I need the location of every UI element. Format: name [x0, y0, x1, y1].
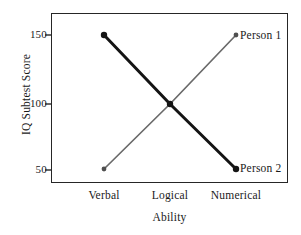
y-axis-title: IQ Subtest Score — [20, 25, 33, 165]
chart-figure: 150 100 50 IQ Subtest Score Verbal Logic… — [0, 0, 301, 235]
series-label-person-2: Person 2 — [240, 162, 282, 175]
x-axis-title: Ability — [51, 211, 288, 224]
series-label-person-1: Person 1 — [240, 29, 282, 42]
x-axis-tick-label-numerical: Numerical — [191, 189, 281, 202]
y-axis-tick-label-50: 50 — [1, 164, 47, 175]
